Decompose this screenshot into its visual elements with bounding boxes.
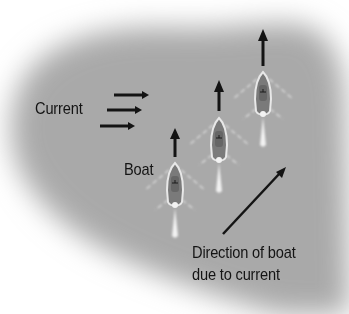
heading-arrow-icon: [218, 91, 221, 111]
heading-arrow-icon: [174, 138, 177, 157]
direction-label-line2: due to current: [192, 265, 280, 284]
boat-current-diagram: Current Boat Direction of boat due to cu…: [0, 0, 349, 314]
direction-label-line1: Direction of boat: [192, 243, 296, 262]
boat-label: Boat: [124, 160, 153, 179]
current-label: Current: [35, 99, 83, 118]
diagram-canvas: [0, 0, 349, 314]
heading-arrow-icon: [262, 40, 265, 66]
